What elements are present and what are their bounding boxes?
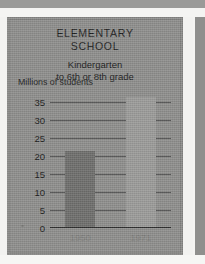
- scan-top-margin: [0, 8, 205, 17]
- x-axis-baseline: [50, 227, 171, 228]
- chart-title-block: ELEMENTARY SCHOOL Kindergarten to 6th or…: [7, 27, 183, 83]
- x-tick-label: 1950: [70, 232, 91, 243]
- scan-top-band: [0, 0, 205, 8]
- y-tick-label: 5: [19, 205, 45, 216]
- y-tick-label: 25: [19, 133, 45, 144]
- adjacent-page-panel: [193, 17, 205, 255]
- x-axis-tick-labels: 19501971: [50, 232, 171, 248]
- page-title-line-1: ELEMENTARY: [7, 27, 183, 40]
- y-tick-label: 30: [19, 115, 45, 126]
- bar-1971: [126, 97, 156, 227]
- grid-area: [50, 93, 171, 228]
- y-axis-tick-labels: 35302520151050: [19, 93, 45, 228]
- chart-page: ELEMENTARY SCHOOL Kindergarten to 6th or…: [0, 0, 205, 264]
- chart-panel: ELEMENTARY SCHOOL Kindergarten to 6th or…: [7, 17, 183, 255]
- y-tick-label: 35: [19, 97, 45, 108]
- bar-1950: [65, 151, 95, 227]
- scan-bottom-margin: [0, 255, 205, 264]
- plot-area: 35302520151050: [19, 93, 171, 228]
- y-tick-label: 10: [19, 187, 45, 198]
- y-axis-caption: Millions of students: [18, 77, 93, 87]
- y-tick-label: 20: [19, 151, 45, 162]
- scan-speck: [21, 225, 24, 227]
- chart-subtitle-line-1: Kindergarten: [7, 59, 183, 71]
- x-tick-label: 1971: [130, 232, 151, 243]
- page-title-line-2: SCHOOL: [7, 40, 183, 53]
- y-tick-label: 15: [19, 169, 45, 180]
